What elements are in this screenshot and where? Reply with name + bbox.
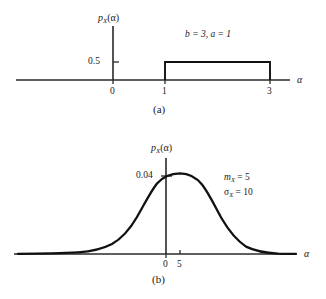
panel-a-y-tick-label: 0.5 bbox=[88, 57, 100, 67]
panel-b-x-axis-label: α bbox=[304, 249, 309, 259]
panel-b-y-axis-label: pX(α) bbox=[151, 143, 172, 155]
panel-a-y-axis-label: pX(α) bbox=[98, 13, 119, 25]
panel-b-mean-symbol: m bbox=[224, 172, 231, 182]
panel-a-x-tick-label-1: 1 bbox=[162, 87, 167, 97]
panel-b-x-tick-label-0: 0 bbox=[163, 260, 168, 270]
panel-b-mean-subscript: X bbox=[231, 176, 235, 183]
panel-a-uniform-pdf: pX(α) α 0.5 0 1 3 b = 3, a = 1 (a) bbox=[0, 0, 326, 130]
panel-b-x-tick-label-5: 5 bbox=[177, 260, 182, 270]
panel-b-y-tick-label: 0.04 bbox=[136, 171, 153, 181]
panel-b-mean-annotation: mX = 5 bbox=[224, 173, 250, 183]
panel-a-y-axis-label-arg: (α) bbox=[107, 12, 119, 23]
figure-container: pX(α) α 0.5 0 1 3 b = 3, a = 1 (a) bbox=[0, 0, 326, 299]
panel-b-sigma-subscript: X bbox=[229, 191, 233, 198]
panel-a-caption: (a) bbox=[153, 104, 165, 115]
panel-a-parameter-annotation: b = 3, a = 1 bbox=[185, 30, 231, 40]
panel-a-x-tick-label-0: 0 bbox=[110, 87, 115, 97]
panel-a-x-axis-label: α bbox=[297, 75, 302, 85]
panel-b-mean-value: = 5 bbox=[237, 172, 249, 182]
panel-b-sigma-value: = 10 bbox=[235, 187, 252, 197]
panel-b-caption: (b) bbox=[152, 274, 165, 285]
panel-b-y-axis-label-arg: (α) bbox=[160, 142, 172, 153]
panel-b-gaussian-pdf: pX(α) α 0.04 0 5 mX = 5 σX = 10 (b) bbox=[0, 128, 326, 299]
panel-a-x-tick-label-3: 3 bbox=[267, 87, 272, 97]
panel-b-sigma-annotation: σX = 10 bbox=[224, 188, 253, 198]
panel-b-gaussian-curve bbox=[18, 173, 296, 254]
panel-a-uniform-pulse bbox=[165, 62, 270, 80]
